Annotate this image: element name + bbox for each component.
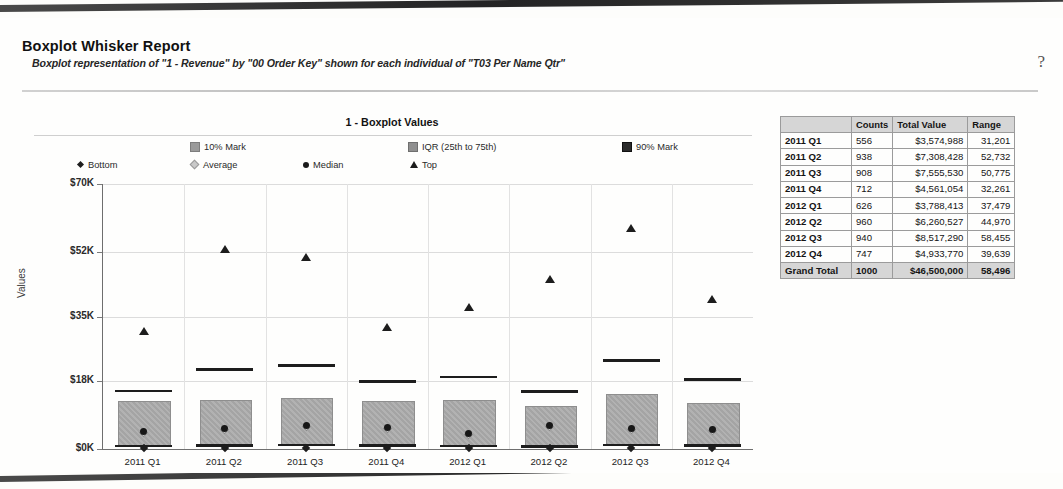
row-total-value: $8,517,290 <box>893 230 968 246</box>
boxplot-group[interactable] <box>266 184 347 449</box>
boxplot-group[interactable] <box>184 184 265 449</box>
row-total-value: $3,574,988 <box>893 133 968 149</box>
median-marker <box>546 422 553 429</box>
x-tick-label: 2012 Q3 <box>590 456 671 467</box>
legend-item-average[interactable]: Average <box>190 159 237 170</box>
top-marker <box>707 295 717 303</box>
square-gray-icon <box>190 142 200 152</box>
table-row: 2011 Q4712$4,561,05432,261 <box>781 181 1015 197</box>
header-divider <box>22 90 1038 92</box>
row-total-value: $7,555,530 <box>893 165 968 181</box>
table-col-counts: Counts <box>852 117 893 133</box>
row-label: 2012 Q4 <box>781 246 852 262</box>
table-header-row: Counts Total Value Range <box>781 117 1015 133</box>
row-label: 2012 Q1 <box>781 198 852 214</box>
table-row: 2012 Q3940$8,517,29058,455 <box>781 230 1015 246</box>
pct90-mark-line <box>115 390 172 393</box>
pct90-mark-line <box>603 359 660 362</box>
pct90-mark-line <box>521 390 578 393</box>
boxplot-group[interactable] <box>672 184 753 449</box>
diamond-dark-icon <box>77 161 84 168</box>
iqr-box <box>687 403 739 447</box>
boxplot-group[interactable] <box>591 184 672 449</box>
pct90-mark-line <box>684 378 741 381</box>
row-label: 2012 Q3 <box>781 230 852 246</box>
square-dark-icon <box>622 142 632 152</box>
table-row: 2011 Q2938$7,308,42852,732 <box>781 149 1015 165</box>
row-range: 50,775 <box>968 165 1015 181</box>
row-label: 2011 Q1 <box>781 133 852 149</box>
row-label: 2012 Q2 <box>781 214 852 230</box>
row-label: 2011 Q2 <box>781 149 852 165</box>
x-tick-label: 2012 Q4 <box>671 456 752 467</box>
top-marker <box>626 224 636 232</box>
pct90-mark-line <box>359 380 416 383</box>
row-label: Grand Total <box>781 263 852 279</box>
y-axis-title: Values <box>16 268 27 298</box>
table-row: 2012 Q4747$4,933,77039,639 <box>781 246 1015 262</box>
table-row: 2012 Q1626$3,788,41337,479 <box>781 198 1015 214</box>
table-row: 2012 Q2960$6,260,52744,970 <box>781 214 1015 230</box>
table-body: 2011 Q1556$3,574,98831,2012011 Q2938$7,3… <box>781 133 1015 279</box>
diamond-light-icon <box>190 160 200 170</box>
row-counts: 940 <box>852 230 893 246</box>
top-marker <box>545 275 555 283</box>
square-mid-icon <box>408 142 418 152</box>
legend-item-median[interactable]: Median <box>303 159 344 170</box>
row-counts: 908 <box>852 165 893 181</box>
table-row: 2011 Q1556$3,574,98831,201 <box>781 133 1015 149</box>
y-tick-label: $52K <box>44 245 94 256</box>
table-row: 2011 Q3908$7,555,53050,775 <box>781 165 1015 181</box>
row-counts: 712 <box>852 181 893 197</box>
boxplot-chart: 1 - Boxplot Values Bottom 10% Mark Avera… <box>22 102 762 472</box>
x-tick-label: 2012 Q2 <box>508 456 589 467</box>
row-range: 32,261 <box>968 181 1015 197</box>
row-total-value: $7,308,428 <box>893 149 968 165</box>
top-marker <box>139 327 149 335</box>
row-total-value: $6,260,527 <box>893 214 968 230</box>
legend-item-90pct-mark[interactable]: 90% Mark <box>622 141 678 152</box>
x-tick-label: 2011 Q2 <box>183 456 264 467</box>
row-counts: 556 <box>852 133 893 149</box>
iqr-box <box>118 401 170 447</box>
y-tick-label: $70K <box>44 177 94 188</box>
table-col-blank <box>781 117 852 133</box>
chart-title-divider <box>34 135 752 136</box>
boxplot-group[interactable] <box>347 184 428 449</box>
row-counts: 938 <box>852 149 893 165</box>
median-marker <box>709 426 716 433</box>
iqr-box <box>606 394 658 445</box>
iqr-box <box>443 400 495 447</box>
summary-table: Counts Total Value Range 2011 Q1556$3,57… <box>780 116 1015 279</box>
circle-dark-icon <box>303 162 309 168</box>
legend-item-bottom[interactable]: Bottom <box>77 159 117 170</box>
row-range: 31,201 <box>968 133 1015 149</box>
row-total-value: $4,933,770 <box>893 246 968 262</box>
pct90-mark-line <box>440 376 497 379</box>
row-range: 37,479 <box>968 198 1015 214</box>
boxplot-group[interactable] <box>103 184 184 449</box>
row-label: 2011 Q4 <box>781 181 852 197</box>
row-counts: 626 <box>852 198 893 214</box>
page-title: Boxplot Whisker Report <box>22 38 1037 54</box>
boxplot-group[interactable] <box>428 184 509 449</box>
help-icon[interactable]: ? <box>1037 52 1045 72</box>
y-tick-label: $18K <box>44 374 94 385</box>
legend-item-iqr[interactable]: IQR (25th to 75th) <box>408 141 496 152</box>
top-marker <box>464 303 474 311</box>
row-label: 2011 Q3 <box>781 165 852 181</box>
top-marker <box>220 245 230 253</box>
row-total-value: $4,561,054 <box>893 181 968 197</box>
row-counts: 1000 <box>852 263 893 279</box>
boxplot-group[interactable] <box>509 184 590 449</box>
plot-canvas <box>102 184 753 450</box>
report-page: Boxplot Whisker Report Boxplot represent… <box>0 18 1063 473</box>
row-range: 58,455 <box>968 230 1015 246</box>
plot-area: Values $0K$18K$35K$52K$70K 2011 Q12011 Q… <box>22 180 762 472</box>
legend-item-top[interactable]: Top <box>410 159 437 170</box>
table-row: Grand Total1000$46,500,00058,496 <box>781 263 1015 279</box>
chart-title: 1 - Boxplot Values <box>22 116 762 128</box>
legend-item-10pct-mark[interactable]: 10% Mark <box>190 141 246 152</box>
x-tick-label: 2012 Q1 <box>427 456 508 467</box>
row-range: 44,970 <box>968 214 1015 230</box>
